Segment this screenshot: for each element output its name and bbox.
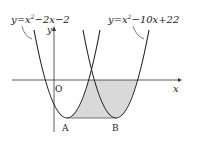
x-axis-arrow-icon bbox=[178, 78, 182, 82]
origin-label: O bbox=[55, 84, 62, 94]
point-b-label: B bbox=[112, 123, 119, 133]
equation-label-1: y=x2−2x−2 bbox=[10, 13, 70, 25]
y-axis-arrow-icon bbox=[52, 26, 56, 31]
graph-canvas: y=x2−2x−2 y=x2−10x+22 y x O A B bbox=[0, 0, 198, 143]
leader-line-2 bbox=[133, 26, 144, 39]
x-axis-label: x bbox=[173, 83, 179, 94]
y-axis-label: y bbox=[46, 25, 53, 35]
leader-line-1 bbox=[22, 26, 32, 39]
point-a-label: A bbox=[61, 123, 69, 133]
shaded-area bbox=[67, 80, 137, 118]
equation-label-2: y=x2−10x+22 bbox=[107, 13, 179, 25]
